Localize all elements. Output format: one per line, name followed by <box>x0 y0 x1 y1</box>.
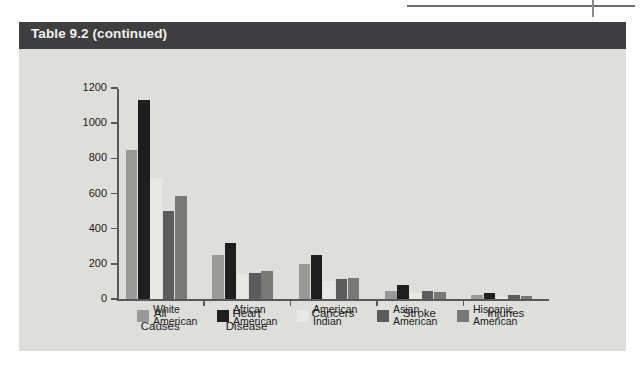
page-title: Table 9.2 (continued) <box>31 26 167 41</box>
bar-group <box>299 88 360 299</box>
bar <box>311 255 323 299</box>
y-axis-tick <box>111 193 118 194</box>
y-axis-tick <box>111 122 118 123</box>
bar <box>163 211 175 299</box>
bar <box>138 100 150 299</box>
y-axis-line <box>117 89 119 300</box>
bar <box>323 281 335 299</box>
bar-group <box>471 88 532 299</box>
bar <box>496 297 508 299</box>
bar-group <box>126 88 187 299</box>
y-axis-tick-label-text: 400 <box>63 223 107 234</box>
bar <box>422 291 434 299</box>
y-axis-tick <box>111 158 118 159</box>
bar <box>348 278 360 299</box>
page-top-rule <box>407 5 635 7</box>
y-axis-tick-label: 600 <box>55 188 107 199</box>
y-axis-tick-label-text: 1200 <box>63 82 107 93</box>
legend-swatch-icon <box>297 310 309 322</box>
legend-label: African American <box>233 304 277 327</box>
bar <box>212 255 224 299</box>
legend-label: American Indian <box>313 304 357 327</box>
y-axis-tick-label: 1000 <box>55 117 107 128</box>
legend-item[interactable]: Hispanic American <box>457 304 517 327</box>
y-axis-tick-label: 0 <box>55 293 107 304</box>
y-axis-tick-label-text: 0 <box>63 293 107 304</box>
page-top-rule-tick <box>592 0 594 17</box>
chart-legend: White AmericanAfrican AmericanAmerican I… <box>137 304 537 334</box>
y-axis-tick-label: 1200 <box>55 82 107 93</box>
legend-swatch-icon <box>137 310 149 322</box>
y-axis-tick-label: 400 <box>55 223 107 234</box>
bar <box>397 285 409 299</box>
y-axis-tick <box>111 298 118 299</box>
bar <box>471 295 483 299</box>
legend-item[interactable]: African American <box>217 304 277 327</box>
card-title-bar: Table 9.2 (continued) <box>19 22 626 49</box>
bar-group <box>212 88 273 299</box>
y-axis-tick-label-text: 800 <box>63 152 107 163</box>
y-axis-tick <box>111 228 118 229</box>
bar <box>249 273 261 299</box>
legend-label: Asian American <box>393 304 437 327</box>
legend-item[interactable]: White American <box>137 304 197 327</box>
legend-item[interactable]: Asian American <box>377 304 437 327</box>
bar <box>385 291 397 299</box>
bar <box>126 150 138 299</box>
bar <box>237 274 249 299</box>
legend-swatch-icon <box>457 310 469 322</box>
bar <box>521 296 533 299</box>
legend-label: White American <box>153 304 197 327</box>
legend-swatch-icon <box>377 310 389 322</box>
y-axis-tick <box>111 263 118 264</box>
legend-swatch-icon <box>217 310 229 322</box>
bar <box>410 293 422 299</box>
y-axis-tick-label: 200 <box>55 258 107 269</box>
bar <box>336 279 348 299</box>
y-axis-tick-label-text: 1000 <box>63 117 107 128</box>
bar <box>225 243 237 299</box>
y-axis-tick-label-text: 200 <box>63 258 107 269</box>
bar <box>261 271 273 299</box>
y-axis-tick-label-text: 600 <box>63 188 107 199</box>
y-axis-tick <box>111 87 118 88</box>
bar <box>150 178 162 299</box>
bar-group <box>385 88 446 299</box>
table-card: Table 9.2 (continued) 020040060080010001… <box>19 22 626 351</box>
bar <box>508 295 520 299</box>
bar <box>434 292 446 299</box>
y-axis-tick-label: 800 <box>55 152 107 163</box>
legend-item[interactable]: American Indian <box>297 304 357 327</box>
bar <box>484 293 496 299</box>
x-axis-line <box>117 299 549 301</box>
bar <box>299 264 311 299</box>
legend-label: Hispanic American <box>473 304 517 327</box>
bar <box>175 196 187 299</box>
